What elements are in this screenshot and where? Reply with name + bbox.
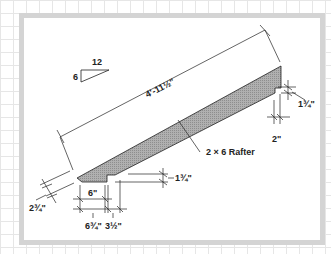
- ridge-plumb-label: 1¾": [298, 99, 315, 109]
- wall-plate-label: 3½": [105, 221, 122, 231]
- rafter-diagram: 12 6 4'-11½" 1¾" 2" 2 × 6 Rafter: [0, 0, 331, 254]
- ridge-seat-label: 2": [272, 134, 281, 144]
- overall-length-label: 4'-11½": [144, 76, 177, 99]
- seat-dimensions: [73, 180, 127, 218]
- pitch-run-label: 12: [92, 57, 102, 67]
- ridge-seat-dimension: [267, 94, 290, 124]
- rafter-member: [77, 66, 281, 182]
- heel-dimension: [115, 168, 174, 188]
- ridge-plumb-dimension: [278, 80, 305, 100]
- member-label: 2 × 6 Rafter: [206, 147, 255, 157]
- tail-offset-label: 6¾": [85, 221, 102, 231]
- pitch-triangle-icon: [81, 70, 109, 82]
- heel-label: 1¾": [175, 173, 192, 183]
- pitch-rise-label: 6: [73, 72, 78, 82]
- tail-plumb-label: 2¾": [29, 203, 46, 213]
- tail-plumb-dimension: [36, 171, 74, 203]
- seat-cut-label: 6": [88, 188, 97, 198]
